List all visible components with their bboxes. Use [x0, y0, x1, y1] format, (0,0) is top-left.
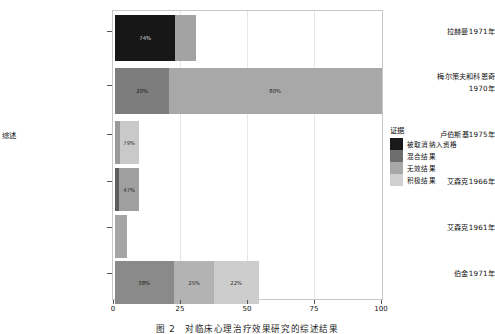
x-axis: 0 25 50 75 100	[112, 300, 383, 316]
legend-item-mixed: 混合结果	[407, 150, 457, 162]
x-tick-label-50: 50	[243, 305, 252, 313]
y-tick-label-rachman-1971: 拉赫曼1971年	[399, 27, 495, 37]
bar-segment-positive: 79%	[120, 121, 139, 164]
bar-row-luborsky-1975: 79%	[113, 121, 382, 164]
bar-segment-label: 74%	[139, 35, 151, 41]
bar-segment-no-effect	[175, 15, 196, 61]
legend-title: 证据	[390, 124, 488, 135]
bar-segment-no-effect: 25%	[174, 261, 214, 304]
y-tick-label-meltzoff-line2: 1970年	[399, 84, 495, 94]
bar-segment-no-effect: 47%	[119, 168, 139, 211]
y-tick-label-bergin-1971: 伯金1971年	[399, 269, 495, 279]
x-tick-mark-50	[247, 300, 248, 304]
chart-figure: 综述 拉赫曼1971年 梅尔策夫和科恩奇 1970年 卢伯斯基1975年 艾森克…	[0, 0, 495, 334]
legend-item-label: 混合结果	[407, 151, 436, 161]
bar-segment-no-effect	[115, 215, 127, 258]
legend-item-positive: 积极结果	[407, 174, 457, 186]
legend-swatch-disqualified	[390, 138, 403, 150]
legend-item-no-effect: 无效结果	[407, 162, 457, 174]
bar-segment-mixed: 38%	[115, 261, 174, 304]
bar-row-meltzoff-1970: 20% 80%	[113, 68, 382, 114]
legend-label-column: 被取消纳入资格 混合结果 无效结果 积极结果	[407, 138, 457, 186]
bar-row-eysenck-1966: 47%	[113, 168, 382, 211]
x-tick-mark-75	[314, 300, 315, 304]
bar-segment-label: 79%	[124, 140, 136, 146]
x-tick-label-25: 25	[176, 305, 185, 313]
bar-segment-positive: 22%	[214, 261, 259, 304]
legend-item-label: 无效结果	[407, 163, 436, 173]
legend: 证据 被取消纳入资格 混合结果 无效结果 积极结果	[388, 124, 488, 139]
bar-segment-label: 25%	[188, 280, 200, 286]
bar-row-eysenck-1961	[113, 215, 382, 258]
bar-row-bergin-1971: 38% 25% 22%	[113, 261, 382, 304]
bar-segment-disqualified: 74%	[115, 15, 175, 61]
bar-segment-label: 20%	[136, 88, 148, 94]
legend-swatch-column	[390, 138, 403, 186]
legend-swatch-mixed	[390, 150, 403, 162]
plot-area: 74% 20% 80% 79% 47%	[112, 10, 383, 300]
x-tick-label-75: 75	[310, 305, 319, 313]
bar-segment-label: 22%	[231, 280, 243, 286]
legend-swatch-positive	[390, 174, 403, 186]
legend-item-label: 被取消纳入资格	[407, 139, 457, 149]
bar-segment-no-effect: 80%	[169, 68, 382, 114]
bar-segment-label: 38%	[139, 280, 151, 286]
legend-swatch-no-effect	[390, 162, 403, 174]
legend-item-disqualified: 被取消纳入资格	[407, 138, 457, 150]
x-tick-label-0: 0	[111, 305, 115, 313]
figure-caption: 图 2 对临床心理治疗效果研究的综述结果	[0, 322, 495, 334]
bar-segment-label: 80%	[270, 88, 282, 94]
y-tick-label-eysenck-1961: 艾森克1961年	[399, 223, 495, 233]
x-tick-mark-25	[180, 300, 181, 304]
legend-item-label: 积极结果	[407, 175, 436, 185]
x-tick-mark-0	[113, 300, 114, 304]
x-tick-mark-100	[381, 300, 382, 304]
y-tick-label-meltzoff-line1: 梅尔策夫和科恩奇	[399, 72, 495, 82]
x-tick-label-100: 100	[374, 305, 387, 313]
y-axis-title: 综述	[2, 132, 16, 141]
bar-segment-mixed: 20%	[115, 68, 169, 114]
bar-segment-label: 47%	[123, 187, 135, 193]
bar-row-rachman-1971: 74%	[113, 15, 382, 61]
